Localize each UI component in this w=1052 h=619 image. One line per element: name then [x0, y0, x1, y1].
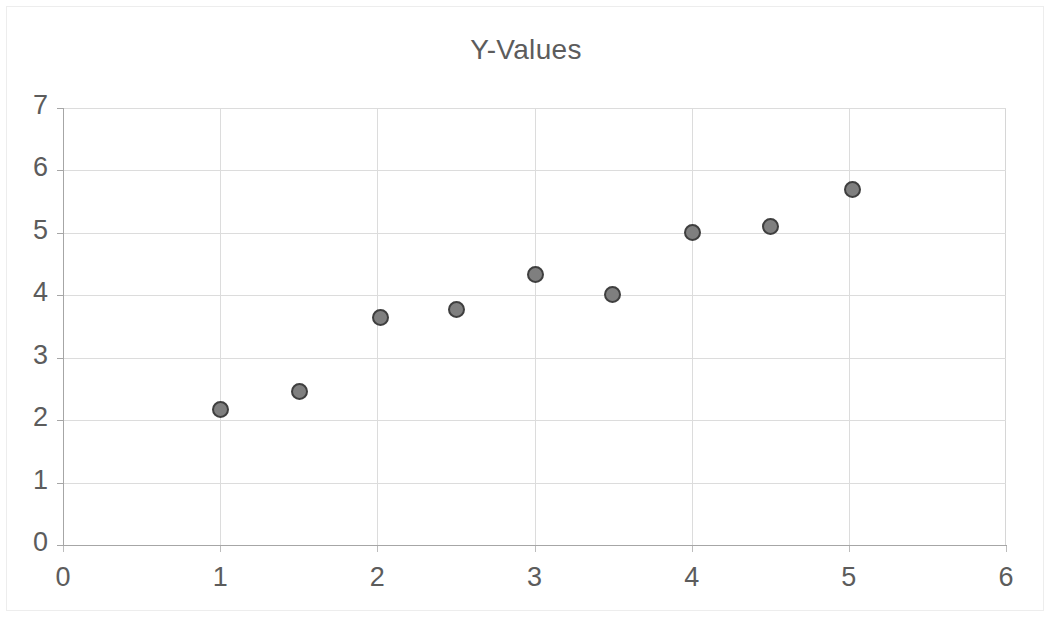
chart-title[interactable]: Y-Values	[0, 34, 1052, 66]
x-axis-tick	[377, 546, 378, 552]
x-axis-tick-label: 3	[495, 562, 575, 593]
y-axis-tick	[57, 420, 63, 421]
data-point-marker[interactable]	[684, 224, 701, 241]
data-point-marker[interactable]	[844, 181, 861, 198]
x-axis-tick	[1006, 546, 1007, 552]
y-axis-tick	[57, 295, 63, 296]
data-point-marker[interactable]	[212, 401, 229, 418]
y-axis-tick	[57, 108, 63, 109]
data-point-marker[interactable]	[604, 286, 621, 303]
y-axis-tick-label: 5	[0, 215, 48, 246]
y-axis-tick-label: 2	[0, 402, 48, 433]
x-axis-tick-label: 5	[809, 562, 889, 593]
data-point-marker[interactable]	[448, 301, 465, 318]
gridline-vertical	[220, 108, 221, 545]
plot-border-right	[1005, 108, 1006, 545]
data-point-marker[interactable]	[527, 266, 544, 283]
y-axis-tick	[57, 483, 63, 484]
scatter-chart[interactable]: Y-Values 01234567 0123456	[0, 0, 1052, 619]
x-axis-tick	[535, 546, 536, 552]
y-axis-tick-label: 7	[0, 90, 48, 121]
x-axis-tick-label: 2	[337, 562, 417, 593]
x-axis-tick-label: 1	[180, 562, 260, 593]
data-point-marker[interactable]	[372, 309, 389, 326]
x-axis-tick-label: 6	[966, 562, 1046, 593]
x-axis-tick	[849, 546, 850, 552]
x-axis-tick	[692, 546, 693, 552]
y-axis-tick	[57, 170, 63, 171]
y-axis-tick	[57, 233, 63, 234]
x-axis-tick-label: 4	[652, 562, 732, 593]
gridline-vertical	[377, 108, 378, 545]
y-axis-tick-label: 4	[0, 277, 48, 308]
y-axis-tick	[57, 358, 63, 359]
y-axis-tick-label: 1	[0, 465, 48, 496]
y-axis-line	[63, 108, 64, 546]
x-axis-tick	[63, 546, 64, 552]
y-axis-tick-label: 0	[0, 527, 48, 558]
data-point-marker[interactable]	[291, 383, 308, 400]
gridline-vertical	[692, 108, 693, 545]
y-axis-tick-label: 3	[0, 340, 48, 371]
gridline-vertical	[849, 108, 850, 545]
x-axis-tick-label: 0	[23, 562, 103, 593]
plot-area[interactable]	[63, 108, 1006, 545]
x-axis-tick	[220, 546, 221, 552]
gridline-vertical	[535, 108, 536, 545]
y-axis-tick-label: 6	[0, 152, 48, 183]
